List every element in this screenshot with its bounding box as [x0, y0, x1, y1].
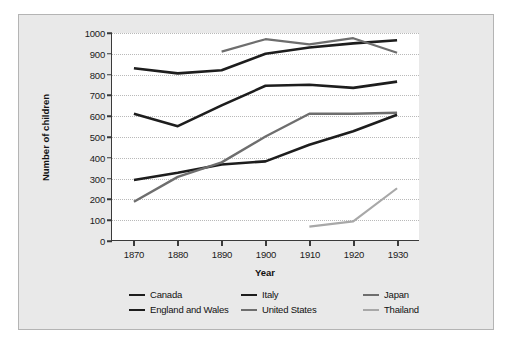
series-lines: [112, 33, 419, 240]
x-tick-mark: [265, 240, 267, 246]
plot-area: 01002003004005006007008009001000 1870188…: [111, 33, 419, 241]
series-line-canada: [134, 40, 397, 73]
y-tick-label: 300: [90, 173, 105, 184]
y-axis-title: Number of children: [37, 33, 55, 241]
legend-label: Japan: [384, 289, 409, 300]
y-tick-label: 1000: [85, 28, 105, 39]
legend-swatch-icon: [129, 309, 145, 311]
y-tick-label: 200: [90, 194, 105, 205]
series-line-england-and-wales: [134, 82, 397, 127]
x-tick-label: 1890: [212, 249, 232, 260]
y-axis-title-text: Number of children: [41, 93, 52, 180]
legend-item-england-and-wales[interactable]: England and Wales: [129, 304, 241, 315]
legend-item-japan[interactable]: Japan: [363, 289, 429, 300]
y-tick-label: 500: [90, 132, 105, 143]
x-tick-mark: [221, 240, 223, 246]
y-tick-label: 600: [90, 111, 105, 122]
x-tick-mark: [177, 240, 179, 246]
legend-swatch-icon: [129, 294, 145, 296]
x-tick-mark: [133, 240, 135, 246]
legend-swatch-icon: [241, 309, 257, 311]
legend: CanadaItalyJapanEngland and WalesUnited …: [129, 287, 429, 317]
x-tick-label: 1870: [124, 249, 144, 260]
series-line-japan: [222, 38, 397, 52]
legend-item-thailand[interactable]: Thailand: [363, 304, 429, 315]
x-tick-mark: [353, 240, 355, 246]
x-axis-title: Year: [111, 267, 419, 278]
legend-item-united-states[interactable]: United States: [241, 304, 363, 315]
legend-label: United States: [262, 304, 316, 315]
figure-panel: Number of children 010020030040050060070…: [18, 14, 494, 330]
y-tick-label: 0: [100, 236, 105, 247]
x-tick-mark: [397, 240, 399, 246]
plot-inner: 01002003004005006007008009001000 1870188…: [112, 33, 419, 240]
legend-item-canada[interactable]: Canada: [129, 289, 241, 300]
x-tick-label: 1910: [300, 249, 320, 260]
series-line-thailand: [309, 188, 397, 226]
chart-screenshot: Number of children 010020030040050060070…: [0, 0, 512, 343]
legend-label: Canada: [150, 289, 182, 300]
legend-swatch-icon: [363, 309, 379, 311]
x-axis-title-text: Year: [255, 267, 275, 278]
legend-swatch-icon: [241, 294, 257, 296]
legend-label: England and Wales: [150, 304, 229, 315]
legend-label: Italy: [262, 289, 278, 300]
y-tick-label: 400: [90, 152, 105, 163]
x-tick-mark: [309, 240, 311, 246]
legend-swatch-icon: [363, 294, 379, 296]
y-tick-label: 700: [90, 90, 105, 101]
legend-label: Thailand: [384, 304, 419, 315]
y-tick-label: 900: [90, 48, 105, 59]
y-tick-label: 800: [90, 69, 105, 80]
x-tick-label: 1900: [256, 249, 276, 260]
legend-item-italy[interactable]: Italy: [241, 289, 363, 300]
x-tick-label: 1930: [388, 249, 408, 260]
y-tick-label: 100: [90, 215, 105, 226]
y-tick-mark: [107, 240, 112, 242]
x-tick-label: 1880: [168, 249, 188, 260]
x-tick-label: 1920: [344, 249, 364, 260]
